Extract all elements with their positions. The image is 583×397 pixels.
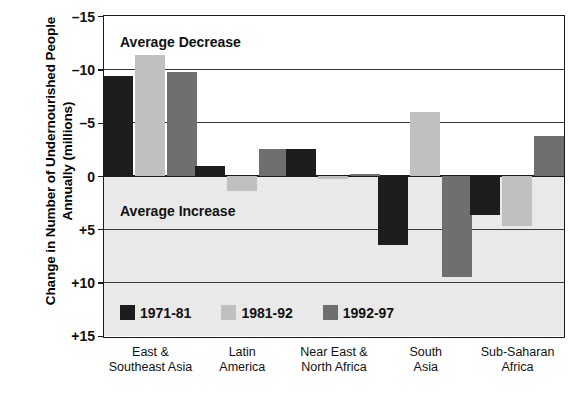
bar	[135, 55, 165, 175]
y-axis-tick-label: –10	[49, 63, 95, 77]
bar	[410, 112, 440, 176]
y-axis-tick-label: –5	[49, 116, 95, 130]
bar	[470, 176, 500, 215]
legend-label: 1971-81	[140, 305, 191, 321]
chart-figure: Change in Number of Undernourished Peopl…	[0, 0, 583, 397]
gridline	[104, 229, 564, 230]
bar	[195, 166, 225, 176]
y-axis-tick-label: +5	[49, 223, 95, 237]
legend: 1971-811981-921992-97	[120, 305, 424, 321]
bar	[502, 176, 532, 226]
legend-swatch-icon	[120, 305, 135, 320]
annotation-average-increase: Average Increase	[120, 203, 235, 219]
bar	[286, 149, 316, 176]
bar	[167, 72, 197, 175]
legend-label: 1981-92	[241, 305, 292, 321]
bar	[442, 176, 472, 277]
legend-swatch-icon	[323, 305, 338, 320]
bar	[534, 136, 564, 175]
legend-item: 1971-81	[120, 305, 191, 321]
plot-area: Average Decrease Average Increase 1971-8…	[103, 15, 565, 338]
bar	[350, 174, 380, 176]
legend-item: 1992-97	[323, 305, 394, 321]
gridline	[104, 282, 564, 283]
gridline	[104, 69, 564, 70]
x-axis-category-label: Sub-Saharan Africa	[458, 345, 578, 375]
legend-label: 1992-97	[343, 305, 394, 321]
bar	[227, 176, 257, 191]
y-axis-tick-label: +10	[49, 276, 95, 290]
bar	[103, 76, 133, 176]
y-axis-tick-label: 0	[49, 170, 95, 184]
bar	[318, 176, 348, 179]
y-axis-tick-label: –15	[49, 10, 95, 24]
bar	[259, 149, 289, 176]
bar	[378, 176, 408, 245]
y-axis-tick-label: +15	[49, 329, 95, 343]
legend-item: 1981-92	[221, 305, 292, 321]
legend-swatch-icon	[221, 305, 236, 320]
annotation-average-decrease: Average Decrease	[120, 34, 241, 50]
